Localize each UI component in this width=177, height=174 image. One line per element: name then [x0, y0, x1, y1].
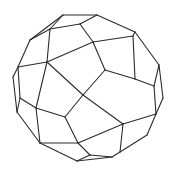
edge-P-W [83, 95, 123, 124]
edge-V-W [123, 114, 156, 124]
edge-Z-AD [112, 152, 120, 157]
edge-T-V [154, 86, 156, 114]
edge-L-N [20, 98, 36, 108]
edge-W-Z [120, 124, 123, 152]
edge-V-AA [147, 114, 156, 135]
edge-I-J [18, 62, 47, 67]
edge-I-F [47, 42, 93, 62]
edge-L-M [17, 98, 20, 112]
edge-Y-AB [78, 143, 90, 155]
edge-B-C [80, 15, 97, 24]
edge-P-Q [83, 70, 105, 95]
edge-I-P [47, 62, 83, 95]
edge-H-S [135, 32, 159, 65]
edge-U-V [156, 98, 163, 114]
edge-I-N [36, 62, 47, 108]
edge-S-U [159, 65, 163, 98]
edge-G-H [133, 32, 135, 36]
edge-O-P [65, 95, 83, 117]
edge-Q-R [105, 70, 135, 79]
edge-J-K [13, 67, 18, 77]
polyhedron-edges [13, 15, 163, 161]
polyhedron-diagram [0, 0, 177, 174]
edge-K-M [13, 77, 17, 112]
edge-F-G [93, 36, 133, 42]
edge-Z-AA [120, 135, 147, 152]
edge-D-I [47, 29, 50, 62]
edge-G-R [133, 36, 135, 79]
edge-J-L [18, 67, 20, 98]
edge-R-T [135, 79, 154, 86]
edge-E-J [18, 40, 30, 67]
edge-S-T [154, 65, 159, 86]
edge-O-Y [65, 117, 78, 143]
edge-X-AC [40, 143, 77, 161]
edge-W-Y [78, 124, 123, 143]
edge-C-F [80, 24, 93, 42]
edge-N-O [36, 108, 65, 117]
edge-B-H [97, 15, 135, 32]
edge-F-Q [93, 42, 105, 70]
edge-E-D [30, 29, 50, 40]
edge-AB-AD [90, 155, 112, 157]
